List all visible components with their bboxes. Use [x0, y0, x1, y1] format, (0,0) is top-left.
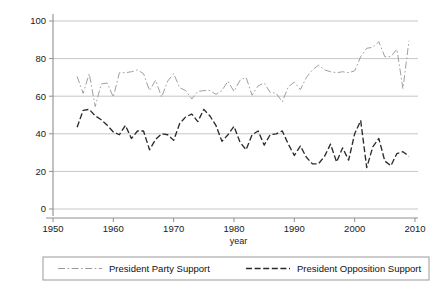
chart-figure: 020406080100 195019601970198019902000201… — [0, 0, 436, 292]
x-tick-label: 1980 — [223, 223, 244, 234]
x-tick-label: 1960 — [103, 223, 124, 234]
gridline-group — [53, 21, 418, 209]
y-tick-label: 20 — [35, 166, 46, 177]
x-tick-label: 2000 — [344, 223, 365, 234]
x-axis-title: year — [230, 236, 248, 246]
line-chart-canvas: 020406080100 195019601970198019902000201… — [0, 0, 436, 292]
x-tick-label: 1950 — [42, 223, 63, 234]
x-tick-label: 2010 — [404, 223, 425, 234]
series-line — [77, 41, 409, 107]
legend-entry-label: President Party Support — [109, 263, 210, 274]
y-tick-label: 0 — [41, 203, 46, 214]
y-tick-label: 80 — [35, 53, 46, 64]
y-tick-label: 40 — [35, 128, 46, 139]
legend-entry-label: President Opposition Support — [297, 263, 421, 274]
chart-legend: President Party SupportPresident Opposit… — [43, 257, 429, 280]
y-tick-label: 100 — [30, 15, 46, 26]
y-tick-label: 60 — [35, 91, 46, 102]
x-tick-label: 1970 — [163, 223, 184, 234]
y-axis-tick-group: 020406080100 — [30, 15, 53, 214]
series-line — [77, 109, 409, 167]
x-axis-tick-group: 1950196019701980199020002010 — [42, 218, 425, 234]
data-series-group — [77, 41, 409, 168]
x-tick-label: 1990 — [284, 223, 305, 234]
